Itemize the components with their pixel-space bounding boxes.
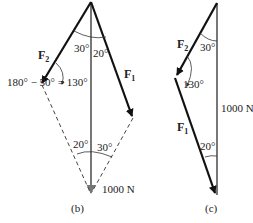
angle-130-c: 130° [183, 78, 204, 90]
figure-c: F2 F1 30° 130° 20° 1000 N (c) [175, 3, 253, 215]
angle-30-top-b: 30° [74, 42, 89, 54]
force-diagram: F2 F1 30° 20° 180° − 50° = 130° 20° 30° … [0, 0, 253, 223]
f1-label-b: F1 [124, 67, 135, 83]
resultant-label-c: 1000 N [221, 102, 253, 114]
f1-arrow-c [175, 78, 215, 193]
angle-130-note-b: 180° − 50° = 130° [7, 76, 88, 88]
resultant-label-b: 1000 N [102, 183, 135, 195]
f1-label-c: F1 [177, 120, 188, 136]
f1-arrow-b [91, 2, 132, 116]
caption-c: (c) [205, 202, 218, 215]
angle-20-c: 20° [200, 140, 215, 152]
f2-label-c: F2 [177, 37, 188, 53]
arc-20-c [205, 156, 217, 157]
angle-30-bottom-b: 30° [97, 141, 112, 153]
angle-30-c: 30° [200, 41, 215, 53]
arc-30-c [200, 33, 217, 41]
figure-b: F2 F1 30° 20° 180° − 50° = 130° 20° 30° … [7, 2, 135, 215]
caption-b: (b) [71, 202, 84, 215]
angle-20-bottom-b: 20° [73, 138, 88, 150]
angle-20-top-b: 20° [93, 47, 108, 59]
dashed-right [92, 118, 133, 192]
f2-label-b: F2 [38, 48, 49, 64]
